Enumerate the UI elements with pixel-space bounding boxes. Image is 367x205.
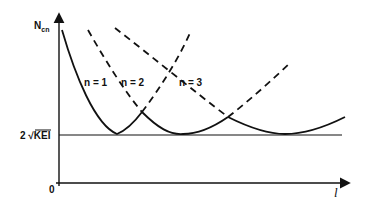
y-axis-label: Ncn [34,20,49,33]
curve-n1-dashed [142,33,190,112]
diagram-canvas: Ncn 0 l 2 √KEI n = 1 n = 2 n = 3 [0,0,367,205]
curve-n2-dashed-left [88,30,142,112]
curve-n2-dashed-right [228,63,290,117]
label-n2: n = 2 [121,77,145,88]
x-axis-label: l [334,185,338,200]
label-n1: n = 1 [84,77,108,88]
label-n3: n = 3 [179,77,203,88]
origin-label: 0 [49,184,55,195]
curve-n2-solid [142,112,228,134]
curve-n3-dashed-left [115,28,228,117]
curve-n3-solid [228,117,345,134]
threshold-label: 2 √KEI [20,130,51,141]
